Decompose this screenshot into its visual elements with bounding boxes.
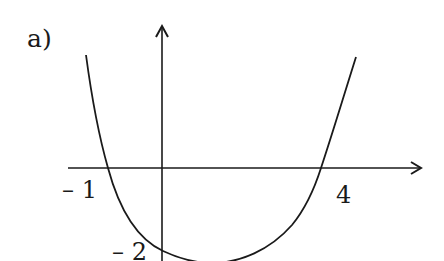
y-tick-label-neg2: – 2 bbox=[112, 240, 147, 261]
polynomial-graph-figure: a) – 1 4 – 2 bbox=[0, 0, 444, 261]
polynomial-curve bbox=[86, 55, 356, 261]
part-label: a) bbox=[27, 26, 52, 51]
x-tick-label-neg1: – 1 bbox=[62, 178, 97, 202]
graph-canvas bbox=[0, 0, 444, 261]
x-tick-label-4: 4 bbox=[336, 183, 351, 207]
